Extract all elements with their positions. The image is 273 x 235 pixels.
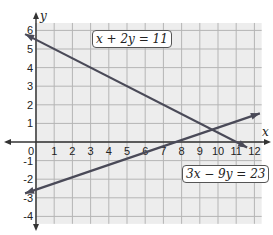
x-axis-label: x xyxy=(262,125,269,139)
y-axis-label: y xyxy=(39,9,47,23)
svg-text:5: 5 xyxy=(27,43,33,55)
svg-text:3: 3 xyxy=(27,80,33,92)
equation-label-1: x + 2y = 11 xyxy=(92,30,172,48)
svg-text:2: 2 xyxy=(27,99,33,111)
svg-text:1: 1 xyxy=(51,145,57,157)
equation-label-2: 3x − 9y = 23 xyxy=(182,165,269,183)
svg-text:8: 8 xyxy=(179,145,185,157)
svg-text:-4: -4 xyxy=(23,210,33,222)
svg-text:-2: -2 xyxy=(23,173,33,185)
svg-text:9: 9 xyxy=(197,145,203,157)
svg-text:12: 12 xyxy=(248,145,260,157)
svg-text:-1: -1 xyxy=(23,155,33,167)
svg-text:4: 4 xyxy=(106,145,112,157)
svg-text:4: 4 xyxy=(27,62,33,74)
svg-text:5: 5 xyxy=(124,145,130,157)
svg-text:1: 1 xyxy=(27,117,33,129)
svg-text:2: 2 xyxy=(69,145,75,157)
svg-text:3: 3 xyxy=(88,145,94,157)
svg-text:10: 10 xyxy=(212,145,224,157)
